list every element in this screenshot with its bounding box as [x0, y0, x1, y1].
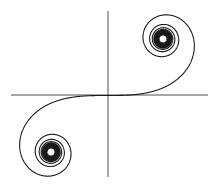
cornu-spiral-diagram — [0, 0, 218, 186]
spiral-curve — [20, 15, 195, 176]
